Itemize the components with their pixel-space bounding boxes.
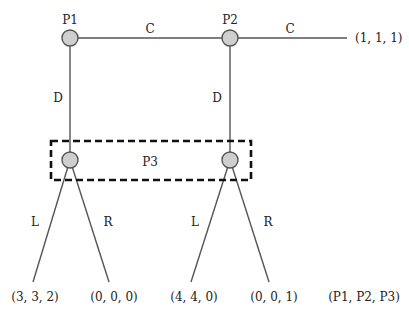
- action-label-p1-continue: C: [145, 22, 154, 36]
- payoff-leaf-1: (3, 3, 2): [11, 290, 59, 304]
- action-label-p3-left-R: R: [103, 215, 113, 229]
- payoff-leaf-3: (4, 4, 0): [170, 290, 218, 304]
- payoff-order-legend: (P1, P2, P3): [328, 290, 400, 304]
- game-tree-diagram: P1 P2 P3 C C D D L R L R (1, 1, 1) (3, 3…: [0, 0, 409, 317]
- action-label-p1-down: D: [53, 91, 63, 105]
- action-label-p3-right-R: R: [263, 215, 273, 229]
- action-label-p3-right-L: L: [191, 215, 199, 229]
- decision-node-p3-left: [62, 152, 78, 168]
- payoff-leaf-2: (0, 0, 0): [90, 290, 138, 304]
- decision-node-p1: [62, 30, 78, 46]
- decision-node-p2: [222, 30, 238, 46]
- action-label-p3-left-L: L: [31, 215, 39, 229]
- player-label-p2: P2: [222, 13, 238, 27]
- decision-node-p3-right: [222, 152, 238, 168]
- player-label-p3: P3: [142, 155, 158, 169]
- player-label-p1: P1: [62, 13, 78, 27]
- action-label-p2-continue: C: [285, 22, 294, 36]
- payoff-leaf-4: (0, 0, 1): [250, 290, 298, 304]
- action-label-p2-down: D: [212, 91, 222, 105]
- payoff-continue: (1, 1, 1): [355, 31, 403, 45]
- game-tree-canvas: P1 P2 P3 C C D D L R L R (1, 1, 1) (3, 3…: [0, 0, 409, 317]
